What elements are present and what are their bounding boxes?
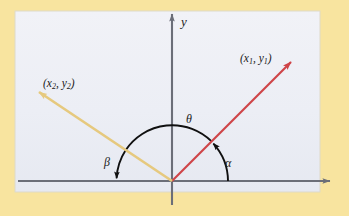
- figure-panel: [15, 11, 320, 192]
- vector-2-label: (x2, y2): [43, 77, 75, 91]
- y-axis-label: y: [179, 14, 187, 29]
- figure-root: y θ α β (x1, y1) (x2, y2): [0, 0, 349, 216]
- angle-alpha-label: α: [225, 156, 232, 170]
- angle-theta-label: θ: [186, 112, 192, 126]
- vector-1-label: (x1, y1): [240, 52, 272, 66]
- angle-beta-label: β: [103, 155, 110, 169]
- vector-1-label-close: ): [267, 52, 272, 65]
- vector-2-label-close: ): [70, 77, 75, 90]
- vector-angle-diagram-svg: y θ α β (x1, y1) (x2, y2): [0, 0, 349, 216]
